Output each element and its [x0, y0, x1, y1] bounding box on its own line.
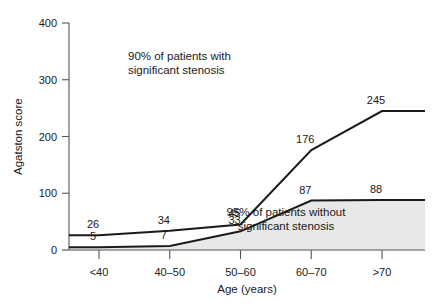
x-tick-label: 40–50 [154, 266, 185, 278]
data-label-without-stenosis: 5 [90, 230, 96, 242]
data-label-without-stenosis: 88 [370, 183, 382, 195]
x-tick-label: 60–70 [296, 266, 327, 278]
y-tick-label: 300 [39, 74, 57, 86]
data-label-without-stenosis: 87 [299, 184, 311, 196]
y-tick-label: 0 [51, 244, 57, 256]
data-label-without-stenosis: 7 [161, 229, 167, 241]
data-label-with-stenosis: 34 [158, 214, 170, 226]
x-axis-title: Age (years) [217, 283, 277, 295]
data-label-with-stenosis: 245 [367, 94, 385, 106]
annotation-without-stenosis-line2: significant stenosis [238, 220, 335, 232]
annotation-with-stenosis-line2: significant stenosis [128, 64, 225, 76]
y-tick-label: 100 [39, 187, 57, 199]
y-axis-tick-labels: 0100200300400 [39, 17, 57, 256]
y-tick-label: 400 [39, 17, 57, 29]
data-label-with-stenosis: 26 [87, 218, 99, 230]
chart-figure: 0100200300400 <4040–5050–6060–70>70 2634… [0, 0, 440, 308]
x-axis-ticks [99, 250, 382, 259]
x-tick-label: 50–60 [225, 266, 256, 278]
annotation-without-stenosis-line1: 95% of patients without [227, 206, 347, 218]
agatston-score-line-chart: 0100200300400 <4040–5050–6060–70>70 2634… [0, 0, 440, 308]
y-tick-label: 200 [39, 131, 57, 143]
y-axis-ticks [62, 23, 69, 250]
annotation-with-stenosis-line1: 90% of patients with [128, 50, 231, 62]
y-axis-title: Agatston score [12, 98, 24, 175]
x-tick-label: <40 [90, 266, 109, 278]
x-tick-label: >70 [373, 266, 392, 278]
data-label-with-stenosis: 176 [296, 133, 314, 145]
x-axis-tick-labels: <4040–5050–6060–70>70 [90, 266, 392, 278]
